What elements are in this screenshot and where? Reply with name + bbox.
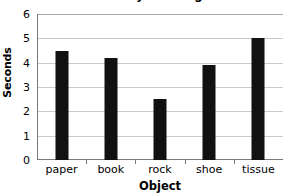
y-tick-label: 3 <box>23 82 30 93</box>
y-tick-label: 1 <box>23 130 30 141</box>
chart-title: Results of My Investigation <box>0 0 290 7</box>
x-tick-label-paper: paper <box>46 163 78 177</box>
x-tick-label-tissue: tissue <box>242 163 275 177</box>
bar-book <box>104 58 117 160</box>
bar-shoe <box>203 65 216 160</box>
bar-chart: Results of My Investigation Seconds 0123… <box>0 0 290 196</box>
x-tick-label-book: book <box>97 163 124 177</box>
y-axis-tick-labels: 0123456 <box>0 0 34 196</box>
x-axis-title: Object <box>37 179 283 193</box>
y-tick-label: 5 <box>23 33 30 44</box>
y-tick-label: 6 <box>23 9 30 20</box>
y-tick-label: 2 <box>23 106 30 117</box>
y-tick-label: 4 <box>23 57 30 68</box>
x-tick-label-rock: rock <box>148 163 171 177</box>
y-tick-label: 0 <box>23 155 30 166</box>
plot-area <box>37 14 283 160</box>
bars <box>37 14 283 160</box>
x-tick-label-shoe: shoe <box>196 163 222 177</box>
bar-tissue <box>252 38 265 160</box>
bar-paper <box>55 51 68 161</box>
bar-rock <box>154 99 167 160</box>
x-axis-tick-labels: paperbookrockshoetissue <box>37 163 283 179</box>
